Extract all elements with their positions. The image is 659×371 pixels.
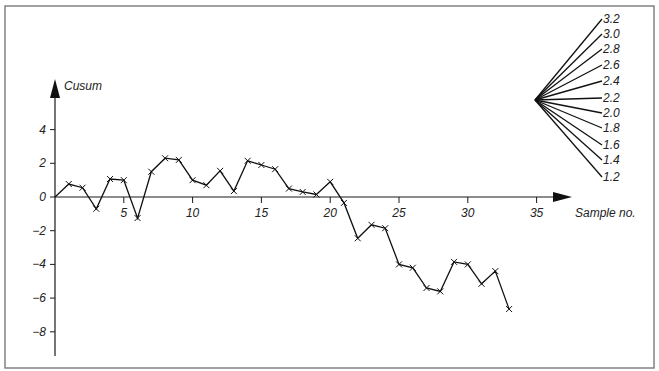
y-tick-label: 2 (38, 156, 46, 170)
cusum-chart: 420−2−4−6−85101520253035 3.23.02.82.62.4… (0, 0, 659, 371)
x-tick-label: 25 (391, 206, 406, 220)
x-tick-label: 30 (461, 206, 475, 220)
v-mask-label: 1.6 (603, 138, 620, 152)
v-mask-label: 2.0 (602, 106, 620, 120)
v-mask-line (535, 65, 602, 100)
x-axis-title: Sample no. (575, 206, 636, 220)
x-tick-label: 5 (120, 206, 127, 220)
y-tick-label: −6 (32, 291, 46, 305)
chart-frame (5, 6, 654, 368)
x-marker-icon (190, 177, 196, 183)
x-marker-icon (327, 179, 333, 185)
v-mask-label: 3.2 (603, 12, 620, 26)
y-tick-label: 4 (39, 123, 46, 137)
v-mask-label: 1.2 (603, 170, 620, 184)
x-marker-icon (93, 206, 99, 212)
x-tick-label: 35 (530, 206, 544, 220)
x-tick-label: 10 (186, 206, 200, 220)
x-marker-icon (506, 306, 512, 312)
v-mask-label: 2.4 (602, 74, 620, 88)
y-axis-title: Cusum (64, 79, 102, 93)
v-mask-label: 1.4 (603, 153, 620, 167)
v-mask-line (535, 98, 602, 100)
x-marker-icon (341, 200, 347, 206)
v-mask-line (535, 49, 602, 100)
y-tick-label: −8 (32, 325, 46, 339)
v-mask-label: 1.8 (603, 121, 620, 135)
v-mask-line (535, 19, 602, 100)
v-mask-line (535, 100, 602, 128)
x-marker-icon (203, 182, 209, 188)
v-mask-label: 2.6 (602, 58, 620, 72)
v-mask-line (535, 100, 602, 160)
x-tick-label: 15 (255, 206, 269, 220)
v-mask-label: 2.8 (602, 42, 620, 56)
y-axis-arrow-icon (50, 79, 60, 98)
x-tick-label: 20 (323, 206, 338, 220)
x-marker-icon (355, 235, 361, 241)
v-mask-label: 2.2 (602, 91, 620, 105)
axes: 420−2−4−6−85101520253035 (32, 79, 572, 356)
v-mask-label: 3.0 (603, 27, 620, 41)
x-marker-icon (479, 281, 485, 287)
x-marker-icon (217, 168, 223, 174)
cusum-series (55, 155, 512, 312)
v-mask-fan: 3.23.02.82.62.42.22.01.81.61.41.2 (535, 12, 620, 184)
x-marker-icon (231, 188, 237, 194)
y-tick-label: −4 (32, 257, 46, 271)
x-axis-arrow-icon (553, 192, 572, 202)
y-tick-label: −2 (32, 224, 46, 238)
x-marker-icon (492, 268, 498, 274)
y-tick-label: 0 (39, 190, 46, 204)
